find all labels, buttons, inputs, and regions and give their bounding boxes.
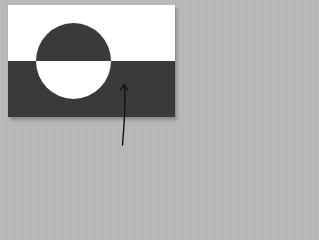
arrow-icon (0, 0, 185, 151)
photo-scene (0, 0, 185, 151)
